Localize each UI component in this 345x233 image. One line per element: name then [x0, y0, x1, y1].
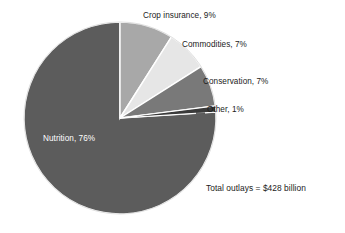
- pie-label-commodities: Commodities, 7%: [182, 40, 247, 50]
- pie-chart-figure: Crop insurance, 9% Commodities, 7% Conse…: [0, 0, 345, 233]
- pie-label-conservation: Conservation, 7%: [203, 77, 268, 87]
- pie-chart-canvas: [0, 0, 345, 233]
- total-outlays-annotation: Total outlays = $428 billion: [206, 183, 306, 193]
- pie-label-other: Other, 1%: [207, 105, 244, 115]
- pie-label-crop-insurance: Crop insurance, 9%: [143, 11, 216, 21]
- pie-label-nutrition: Nutrition, 76%: [43, 134, 95, 144]
